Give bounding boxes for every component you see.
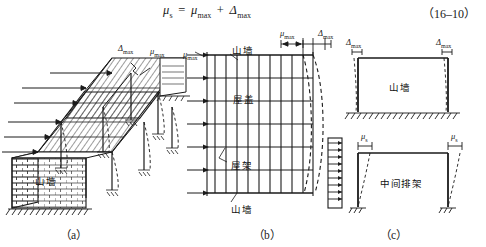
gable-wall-block [12,152,112,208]
ground-hatch-c-top [345,113,460,119]
equation-lhs: μ [163,3,170,17]
mu-s-right-label-c: μs [451,131,458,143]
caption-b: （b） [253,226,281,242]
mu-max-label-a: μmax [150,46,165,58]
label-leaders-b [195,52,238,202]
dimension-chain-b [281,38,331,55]
mu-max-top-label-b: μmax [280,28,295,40]
equation-row: μs = μmax + Δmax （16–10） [0,2,486,24]
mu-s-left-label-c: μs [361,131,368,143]
load-arrowheads-b [203,53,209,196]
equation-term1: μ [191,3,198,17]
delta-max-label-a: Δmax [118,43,133,55]
panel-b: μmax μmax Δmax 山墙 屋盖 屋架 山墙 [185,30,345,230]
equation-number: （16–10） [422,4,476,22]
figure-16-10: μs = μmax + Δmax （16–10） [0,0,486,247]
mu-s-dimension-ticks-c [358,142,462,150]
panel-a: Δmax μmax 山墙 [0,30,190,230]
load-strip-c [328,138,342,208]
equation-equals: = [176,3,187,17]
caption-c: （c） [380,226,407,242]
mu-max-left-label-b: μmax [183,49,198,61]
ground-hatch-a [6,209,92,215]
equation-lhs-sub: s [170,11,173,20]
roof-truss-label-b: 屋架 [231,158,252,172]
equation-term2-sub: max [237,11,251,20]
delta-dimension-ticks-c [352,49,452,55]
gable-wall-frame-label-c: 山墙 [389,80,410,94]
roof-cover-label-b: 屋盖 [233,92,254,106]
gable-wall-label-a: 山墙 [35,174,56,188]
intermediate-bent-label-c: 中间排架 [380,176,422,190]
equation-term1-sub: max [198,11,212,20]
delta-max-top-label-b: Δmax [318,28,333,40]
bent-footings-c [349,208,456,213]
panel-c: Δmax Δmax 山墙 μs μs 中间排架 [340,30,486,230]
gable-wall-bottom-label-b: 山墙 [231,202,252,216]
panel-b-drawing [185,30,345,230]
equation-plus: + [215,3,226,17]
equation-expression: μs = μmax + Δmax [163,3,251,20]
caption-a: （a） [60,226,87,242]
gable-wall-top-label-b: 山墙 [232,43,253,57]
delta-max-right-label-c: Δmax [436,37,451,49]
panel-c-drawing [340,30,486,230]
delta-max-left-label-c: Δmax [346,37,361,49]
panel-a-drawing [0,30,190,230]
